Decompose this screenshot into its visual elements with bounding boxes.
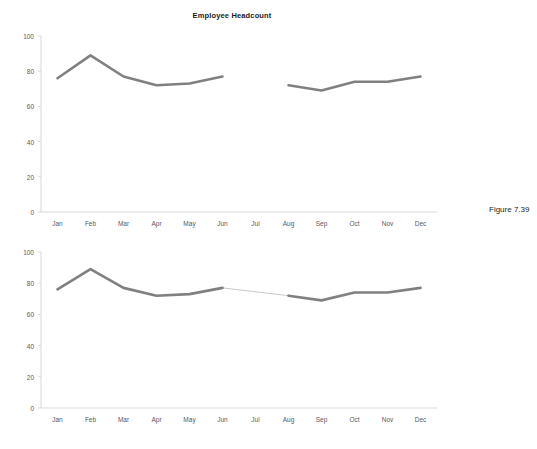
data-series-line — [58, 55, 223, 85]
chart-plot-area — [0, 240, 460, 440]
data-series-line — [289, 76, 421, 90]
figure-caption: Figure 7.39 — [489, 205, 529, 214]
gap-connector-line — [223, 288, 289, 296]
line-chart-employee-headcount: Employee Headcount 020406080100 JanFebMa… — [0, 0, 460, 238]
line-chart-employee-headcount-connected: 020406080100 JanFebMarAprMayJunJulAugSep… — [0, 240, 460, 440]
figure-page: Employee Headcount 020406080100 JanFebMa… — [0, 0, 537, 449]
data-series-line — [289, 288, 421, 300]
chart-plot-area — [0, 0, 460, 238]
data-series-line — [58, 269, 223, 296]
